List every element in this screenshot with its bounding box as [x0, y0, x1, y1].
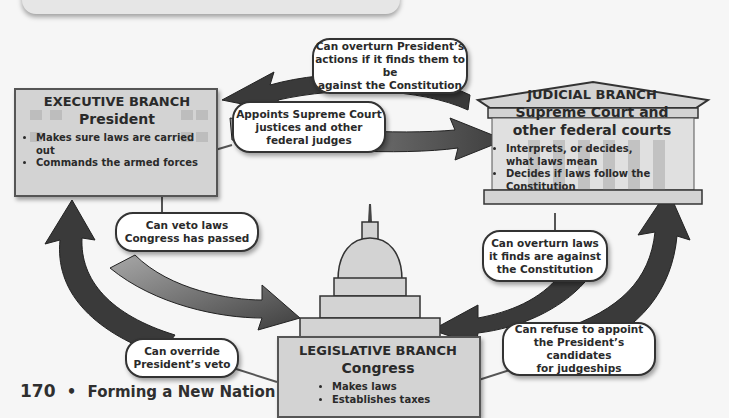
arrow-executive-to-legislative: [110, 255, 300, 330]
callout-executive-to-legislative: Can veto laws Congress has passed: [115, 212, 259, 252]
callout-executive-to-judicial: Appoints Supreme Court justices and othe…: [232, 101, 386, 153]
judicial-title: JUDICIAL BRANCH: [492, 87, 692, 103]
page-footer: 170 • Forming a New Nation: [20, 381, 275, 401]
judicial-powers: Interprets, or decides, what laws mean D…: [492, 143, 656, 193]
judicial-subtitle-1: Supreme Court and: [492, 103, 692, 121]
callout-line: justices and other: [234, 121, 384, 134]
executive-powers: Makes sure laws are carried out Commands…: [22, 132, 212, 170]
capitol-dome-icon: [300, 204, 440, 338]
callout-line: Congress has passed: [117, 232, 257, 245]
judicial-power: Decides if laws follow the Constitution: [506, 168, 656, 193]
executive-power: Makes sure laws are carried out: [36, 132, 212, 157]
callout-line: President’s veto: [127, 358, 237, 371]
footer-separator: •: [67, 383, 77, 401]
callout-line: Can veto laws: [117, 219, 257, 232]
callout-line: against the Constitution: [314, 79, 466, 92]
judicial-subtitle-2: other federal courts: [492, 121, 692, 139]
callout-line: Can override: [127, 345, 237, 358]
page-number: 170: [20, 381, 56, 401]
callout-judicial-to-legislative: Can overturn laws it finds are against t…: [482, 230, 608, 282]
executive-power: Commands the armed forces: [36, 157, 212, 170]
callout-line: it finds are against: [484, 250, 606, 263]
callout-line: the Constitution: [484, 263, 606, 276]
callout-line: Can overturn President’s: [314, 40, 466, 53]
callout-line: for judgeships: [504, 362, 654, 375]
callout-line: Appoints Supreme Court: [234, 108, 384, 121]
legislative-power: Establishes taxes: [332, 394, 476, 407]
legislative-power: Makes laws: [332, 381, 476, 394]
legislative-powers: Makes laws Establishes taxes: [318, 381, 476, 406]
judicial-branch: JUDICIAL BRANCH Supreme Court and other …: [492, 87, 692, 193]
callout-line: federal judges: [234, 134, 384, 147]
executive-title: EXECUTIVE BRANCH: [22, 94, 212, 110]
chapter-title: Forming a New Nation: [88, 383, 276, 401]
callout-line: the President’s candidates: [504, 336, 654, 362]
callout-line: Can refuse to appoint: [504, 323, 654, 336]
legislative-title: LEGISLATIVE BRANCH: [280, 343, 476, 359]
callout-line: Can overturn laws: [484, 237, 606, 250]
legislative-subtitle: Congress: [280, 359, 476, 377]
callout-legislative-to-executive: Can override President’s veto: [125, 338, 239, 378]
callout-judicial-to-executive: Can overturn President’s actions if it f…: [312, 38, 468, 94]
legislative-branch: LEGISLATIVE BRANCH Congress Makes laws E…: [280, 343, 476, 406]
callout-line: actions if it finds them to be: [314, 53, 466, 79]
executive-branch: EXECUTIVE BRANCH President Makes sure la…: [22, 94, 212, 170]
executive-subtitle: President: [22, 110, 212, 128]
judicial-power: Interprets, or decides, what laws mean: [506, 143, 656, 168]
callout-legislative-to-judicial: Can refuse to appoint the President’s ca…: [502, 322, 656, 376]
